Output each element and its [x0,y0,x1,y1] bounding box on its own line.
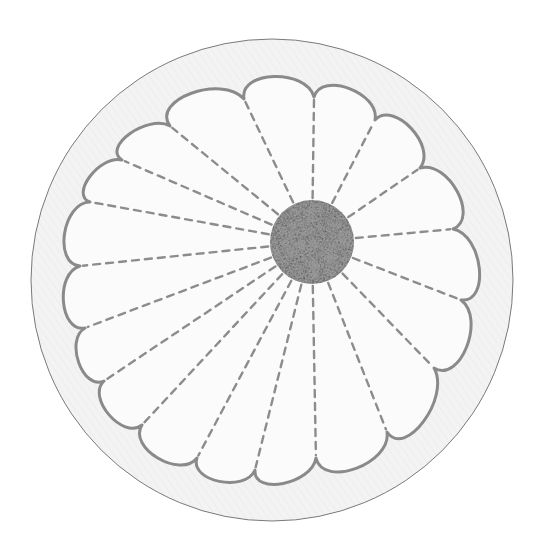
petal-outline-stitches [63,76,479,484]
flower-embroidery [0,0,543,539]
embroidery-image [0,0,543,539]
petal-outline [63,76,479,484]
flower-center-french-knots [270,200,354,284]
